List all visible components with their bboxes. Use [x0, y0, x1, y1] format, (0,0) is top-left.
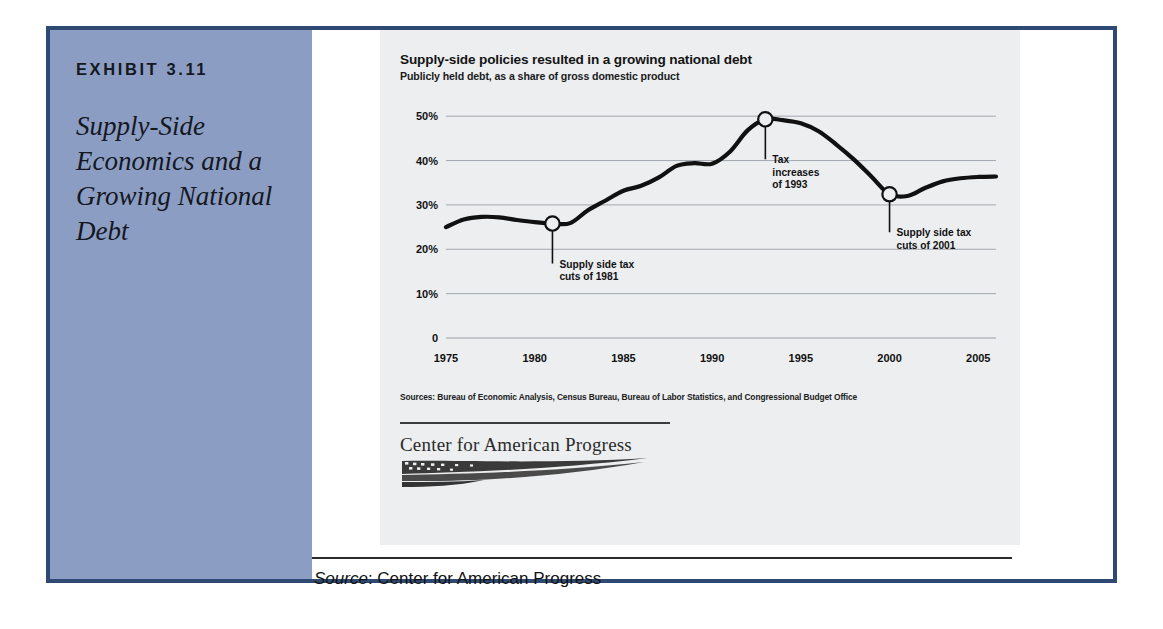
svg-text:50%: 50%	[416, 110, 438, 122]
svg-text:1975: 1975	[434, 352, 458, 364]
logo-wordmark-text: Center for American Progress	[400, 434, 672, 456]
svg-text:cuts of 1981: cuts of 1981	[559, 271, 618, 282]
svg-text:cuts of 2001: cuts of 2001	[897, 240, 956, 251]
svg-text:10%: 10%	[416, 288, 438, 300]
source-attribution: Source: Center for American Progress	[314, 569, 601, 589]
svg-text:Tax: Tax	[772, 154, 789, 165]
svg-text:1995: 1995	[789, 352, 813, 364]
chart-y-axis-ticks: 010%20%30%40%50%	[416, 110, 438, 344]
center-for-american-progress-logo: Center for American Progress	[400, 434, 672, 491]
svg-text:1980: 1980	[522, 352, 546, 364]
flag-swoosh-icon	[400, 457, 662, 491]
exhibit-caption-panel: EXHIBIT 3.11 Supply-Side Economics and a…	[50, 30, 312, 579]
svg-text:40%: 40%	[416, 155, 438, 167]
svg-text:20%: 20%	[416, 243, 438, 255]
svg-text:30%: 30%	[416, 199, 438, 211]
chart-title: Supply-side policies resulted in a growi…	[400, 52, 1000, 67]
debt-share-line	[446, 119, 996, 227]
svg-text:1985: 1985	[611, 352, 635, 364]
source-value: Center for American Progress	[377, 569, 601, 588]
svg-text:1990: 1990	[700, 352, 724, 364]
chart-plot-area: 010%20%30%40%50% 19751980198519901995200…	[400, 86, 1000, 386]
chart-subtitle: Publicly held debt, as a share of gross …	[400, 70, 1000, 82]
chart-x-axis-ticks: 1975198019851990199520002005	[434, 352, 991, 364]
source-label: Source	[314, 569, 368, 588]
svg-text:Supply side tax: Supply side tax	[897, 227, 972, 238]
svg-text:2000: 2000	[877, 352, 901, 364]
source-separator: :	[368, 569, 377, 588]
svg-text:of 1993: of 1993	[772, 179, 807, 190]
source-divider-rule	[312, 557, 1012, 559]
svg-text:2005: 2005	[966, 352, 990, 364]
anno-1993: Taxincreasesof 1993	[758, 112, 820, 190]
line-chart-svg: 010%20%30%40%50% 19751980198519901995200…	[400, 86, 1000, 386]
chart-sources-note: Sources: Bureau of Economic Analysis, Ce…	[400, 392, 1000, 402]
exhibit-figure-frame: EXHIBIT 3.11 Supply-Side Economics and a…	[46, 26, 1117, 583]
svg-text:increases: increases	[772, 167, 819, 178]
svg-text:0: 0	[432, 332, 438, 344]
exhibit-content-panel: Supply-side policies resulted in a growi…	[312, 30, 1113, 579]
svg-text:Supply side tax: Supply side tax	[559, 259, 634, 270]
logo-divider-rule	[400, 422, 670, 424]
chart-card: Supply-side policies resulted in a growi…	[380, 30, 1020, 545]
exhibit-number-label: EXHIBIT 3.11	[76, 60, 286, 79]
exhibit-title: Supply-Side Economics and a Growing Nati…	[76, 109, 286, 249]
anno-2001: Supply side taxcuts of 2001	[882, 187, 971, 251]
